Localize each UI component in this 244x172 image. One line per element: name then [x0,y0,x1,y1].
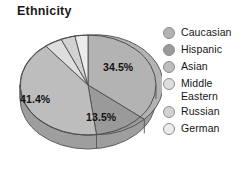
legend-label-german: German [181,122,220,135]
legend-label-hispanic: Hispanic [181,43,222,56]
legend-item-german[interactable]: German [163,122,244,136]
chart-legend: Caucasian Hispanic Asian Middle Eastern … [163,26,244,139]
legend-swatch-caucasian [163,27,175,39]
legend-item-russian[interactable]: Russian [163,105,244,119]
legend-label-russian: Russian [181,105,220,118]
chart-container: Ethnicity [0,0,244,172]
page-title: Ethnicity [17,4,72,18]
legend-label-caucasian: Caucasian [181,26,232,39]
legend-swatch-german [163,123,175,135]
legend-label-asian: Asian [181,60,208,73]
legend-swatch-hispanic [163,44,175,56]
legend-item-asian[interactable]: Asian [163,60,244,74]
legend-label-middle-eastern: Middle Eastern [181,77,218,102]
pie-label-asian: 41.4% [20,93,50,105]
legend-swatch-middle-eastern [163,78,175,90]
legend-swatch-russian [163,106,175,118]
legend-item-caucasian[interactable]: Caucasian [163,26,244,40]
legend-swatch-asian [163,61,175,73]
pie-label-hispanic: 13.5% [86,111,116,123]
legend-item-middle-eastern[interactable]: Middle Eastern [163,77,244,102]
legend-item-hispanic[interactable]: Hispanic [163,43,244,57]
pie-label-caucasian: 34.5% [103,61,133,73]
